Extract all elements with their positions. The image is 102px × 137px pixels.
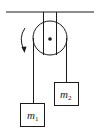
mass-m1-subscript: 1 (35, 115, 39, 123)
mass-m1-label: m (27, 109, 35, 121)
atwood-machine-diagram: m1 m2 (0, 0, 102, 137)
mass-m2-subscript: 2 (68, 94, 72, 102)
curved-arrow-icon (21, 28, 26, 53)
mass-m1: m1 (21, 104, 45, 127)
pulley-axle (48, 37, 52, 41)
mass-m2-label: m (60, 88, 68, 100)
mass-m2: m2 (55, 83, 79, 106)
